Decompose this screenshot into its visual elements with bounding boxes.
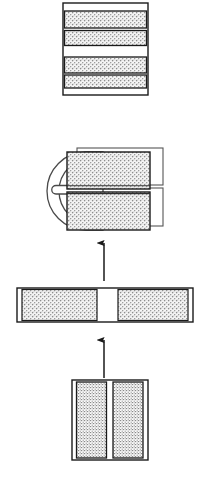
- laminate-hatched-band-2: [65, 31, 147, 46]
- figure-canvas: [0, 0, 208, 492]
- stage-paired-vertical-panels: [72, 380, 148, 460]
- stage-final-stacked-laminate: [63, 3, 148, 95]
- laminate-hatched-band-3: [65, 57, 147, 73]
- upper-hatched-block: [67, 152, 150, 189]
- right-vertical-hatched-panel: [113, 382, 143, 458]
- left-vertical-hatched-panel: [77, 382, 107, 458]
- stage-clamped-assembly: [47, 148, 163, 230]
- stage-horizontal-split-bar: [17, 288, 193, 322]
- laminate-hatched-band-1: [65, 11, 147, 28]
- laminate-hatched-band-4: [65, 75, 147, 88]
- split-bar-right-hatched-segment: [118, 290, 188, 321]
- lower-hatched-block: [67, 192, 150, 230]
- split-bar-left-hatched-segment: [22, 290, 97, 321]
- assembly-sequence-figure: [0, 0, 208, 492]
